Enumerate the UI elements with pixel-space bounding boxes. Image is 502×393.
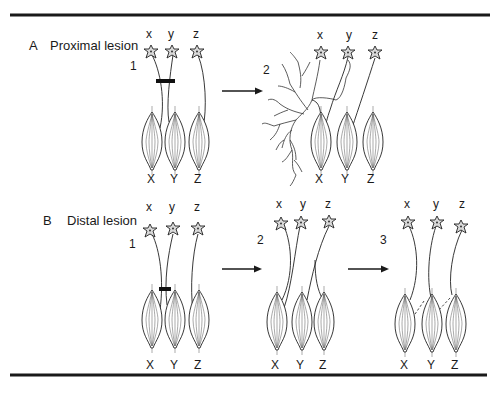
panel-a-stage-1: 1 x y z X Y Z [130,27,209,186]
panel-b-letter: B [43,213,52,228]
muscle-label-z: Z [319,358,326,372]
muscle-x [142,106,162,175]
neuron-label-x: x [146,27,152,41]
muscle-label-x: X [400,358,408,372]
neuron-label-y: y [346,28,352,42]
muscle-label-z: Z [194,172,201,186]
muscle-label-z: Z [451,358,458,372]
stage-number: 1 [129,237,136,251]
muscle-label-x: X [315,172,323,186]
neuron-label-x: x [404,197,410,211]
neuron-label-y: y [168,27,174,41]
muscle-z [189,106,209,175]
arrow-right-icon [222,88,263,95]
panel-a-letter: A [29,38,38,53]
neuron-x [314,46,328,59]
muscle-x [395,288,415,357]
neuron-y [165,45,179,58]
stage-number: 3 [380,233,387,247]
arrow-right-icon [348,266,389,273]
panel-b: B Distal lesion 1 x y z X Y Z [43,197,468,372]
neuron-x [143,224,157,237]
neuron-z [190,45,204,58]
muscle-label-x: X [271,358,279,372]
neuron-x [144,45,158,58]
muscle-label-y: Y [341,172,349,186]
neuron-label-y: y [169,200,175,214]
muscle-y [422,288,442,357]
neuron-label-z: z [194,200,200,214]
muscle-label-y: Y [296,358,304,372]
muscle-z [314,286,334,355]
muscle-y [292,286,312,355]
neuron-label-x: x [146,200,152,214]
neuron-label-x: x [317,28,323,42]
neuron-label-z: z [193,27,199,41]
muscle-z [446,288,466,357]
neuron-x [274,217,288,230]
panel-b-stage-3: 3 x y z X Y Z [380,197,468,372]
stage-number: 2 [257,233,264,247]
muscle-label-y: Y [170,358,178,372]
muscle-label-x: X [147,172,155,186]
panel-b-stage-2: 2 x y z X Y Z [257,197,336,372]
neuron-label-y: y [300,197,306,211]
muscle-label-y: Y [427,358,435,372]
arrow-right-icon [222,266,262,273]
neuron-x [401,216,415,229]
neuron-z [191,222,205,235]
muscle-label-y: Y [170,172,178,186]
stage-number: 2 [263,63,270,77]
neuron-label-x: x [276,197,282,211]
neuron-y [430,216,444,229]
neuron-z [368,46,382,59]
neuron-label-z: z [372,28,378,42]
panel-a-title: Proximal lesion [50,38,138,53]
muscle-z [363,106,383,175]
neuron-label-z: z [325,197,331,211]
neuron-label-y: y [433,197,439,211]
muscle-label-z: Z [194,358,201,372]
panel-b-title: Distal lesion [67,213,137,228]
muscle-y [337,106,357,175]
muscle-y [165,284,185,353]
nerve-lesion-diagram: A Proximal lesion 1 x y z X Y Z [0,0,502,393]
axon-sprouts [262,52,350,186]
muscle-label-z: Z [367,172,374,186]
neuron-y [294,216,308,229]
neuron-y [166,222,180,235]
original-path-dashed [413,301,424,317]
neuron-label-z: z [459,197,465,211]
panel-a-stage-2: 2 x y z X [262,28,383,186]
panel-b-stage-1: 1 x y z X Y Z [129,200,209,372]
muscle-x [142,284,162,353]
muscle-label-x: X [146,358,154,372]
panel-a: A Proximal lesion 1 x y z X Y Z [29,27,383,186]
stage-number: 1 [130,59,137,73]
